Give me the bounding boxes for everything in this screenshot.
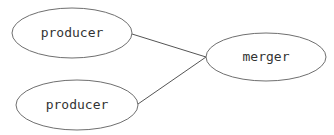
node-producer-top[interactable]: producer [12, 8, 132, 58]
node-label: producer [46, 97, 109, 112]
node-label: merger [243, 49, 290, 64]
edge-producer1-merger [132, 34, 206, 57]
diagram-canvas: producer producer merger [0, 0, 334, 135]
node-producer-bottom[interactable]: producer [16, 80, 138, 130]
edge-producer2-merger [138, 57, 206, 104]
node-merger[interactable]: merger [206, 33, 326, 81]
node-label: producer [41, 25, 104, 40]
